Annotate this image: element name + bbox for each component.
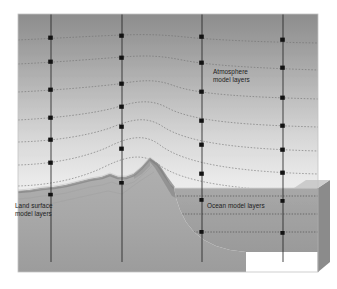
ocean-label: Ocean model layers <box>207 202 265 210</box>
node-point <box>280 171 285 175</box>
node-point <box>48 88 53 92</box>
atmosphere-region <box>18 14 318 192</box>
node-point-ocean <box>199 230 203 234</box>
node-point <box>119 34 124 38</box>
node-point <box>119 56 124 60</box>
atmosphere-label-line1: Atmosphere <box>213 68 250 76</box>
node-point <box>199 61 204 65</box>
atmosphere-label-line2: model layers <box>213 76 250 84</box>
node-point <box>199 143 204 147</box>
node-point <box>199 172 204 176</box>
node-point <box>119 125 124 129</box>
node-point <box>280 96 285 100</box>
ocean-label-line1: Ocean model layers <box>207 202 265 210</box>
node-point-land <box>48 193 53 197</box>
node-point <box>280 148 285 152</box>
node-point <box>199 119 204 123</box>
node-point <box>199 35 204 39</box>
node-point <box>119 147 124 151</box>
node-point <box>199 90 204 94</box>
node-point <box>48 161 53 165</box>
model-grid-diagram <box>0 0 337 289</box>
node-point <box>48 116 53 120</box>
node-point-ocean <box>199 198 203 202</box>
land-surface-label: Land surface model layers <box>15 202 53 217</box>
land-surface-label-line1: Land surface <box>15 202 53 210</box>
node-point <box>48 36 53 40</box>
node-point <box>280 124 285 128</box>
node-point-ocean <box>280 231 284 235</box>
node-point <box>48 138 53 142</box>
node-point <box>280 38 285 42</box>
node-point <box>119 105 124 109</box>
diagram-root: Atmosphere model layers Land surface mod… <box>0 0 337 289</box>
ocean-block-side-face <box>318 180 330 272</box>
node-point <box>280 66 285 70</box>
node-point <box>119 82 124 86</box>
node-point-land <box>119 181 124 185</box>
atmosphere-label: Atmosphere model layers <box>213 68 250 83</box>
land-surface-label-line2: model layers <box>15 210 53 218</box>
node-point <box>48 60 53 64</box>
node-point-ocean <box>280 199 284 203</box>
